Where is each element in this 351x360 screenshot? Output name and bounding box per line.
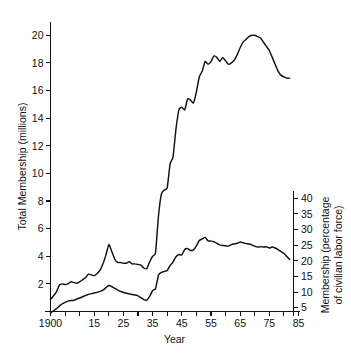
- right-axis-tick-label: 25: [301, 239, 313, 251]
- line-chart-svg: 2468101214161820 510152025303540 1900152…: [0, 0, 351, 360]
- series-total-membership: [51, 35, 290, 299]
- left-axis-tick-label: 16: [32, 84, 44, 96]
- left-axis-tick-label: 6: [38, 222, 44, 234]
- right-axis-tick-label: 15: [301, 270, 313, 282]
- x-axis-tick-label: 85: [293, 317, 305, 329]
- left-axis-tick-label: 8: [38, 195, 44, 207]
- left-axis-tick-label: 10: [32, 167, 44, 179]
- right-axis-tick-label: 35: [301, 208, 313, 220]
- right-axis-tick-label: 20: [301, 255, 313, 267]
- x-axis-tick-label: 45: [176, 317, 188, 329]
- right-axis-tick-label: 5: [301, 301, 307, 313]
- left-axis: 2468101214161820: [32, 22, 51, 312]
- left-axis-tick-label: 18: [32, 57, 44, 69]
- left-axis-tick-label: 2: [38, 278, 44, 290]
- x-axis: 19001525354555657585: [39, 312, 305, 330]
- left-axis-tick-label: 14: [32, 112, 44, 124]
- left-axis-tick-label: 20: [32, 29, 44, 41]
- x-axis-tick-label: 75: [263, 317, 275, 329]
- left-axis-title: Total Membership (millions): [16, 103, 28, 231]
- right-axis-tick-label: 40: [301, 192, 313, 204]
- x-axis-tick-label: 35: [147, 317, 159, 329]
- x-axis-tick-label: 1900: [39, 317, 63, 329]
- x-axis-title: Year: [164, 333, 186, 345]
- x-axis-tick-label: 15: [88, 317, 100, 329]
- series-percent-labor-force: [51, 237, 290, 313]
- right-axis-tick-label: 10: [301, 286, 313, 298]
- chart-figure: 2468101214161820 510152025303540 1900152…: [0, 0, 351, 360]
- x-axis-tick-label: 25: [118, 317, 130, 329]
- left-axis-tick-label: 4: [38, 250, 44, 262]
- right-axis-tick-label: 30: [301, 223, 313, 235]
- x-axis-tick-label: 65: [234, 317, 246, 329]
- right-axis-title-line2: of civilian labor force): [332, 205, 344, 304]
- data-series-group: [51, 35, 290, 313]
- right-axis-title-line1: Membership (percentage: [319, 196, 331, 313]
- left-axis-tick-label: 12: [32, 140, 44, 152]
- cropped-header-text: [40, 0, 340, 6]
- right-axis: 510152025303540: [294, 191, 313, 316]
- x-axis-tick-label: 55: [205, 317, 217, 329]
